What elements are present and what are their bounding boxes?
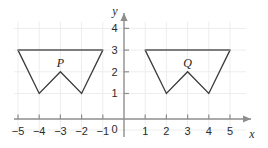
y-tick-label: 2: [111, 66, 117, 78]
y-axis-ticks: [124, 28, 129, 93]
y-tick-label: 1: [111, 87, 117, 99]
shape-q-label: Q: [183, 56, 192, 70]
coordinate-plot-svg: −5 −4 −3 −2 −1 1 2 3 4 5 4 3 2 1 0 x y P: [0, 0, 268, 148]
x-axis-arrow: [243, 115, 251, 122]
y-axis-arrow: [120, 13, 127, 21]
x-tick-label: 2: [163, 125, 169, 137]
x-tick-label: 1: [142, 125, 148, 137]
coordinate-plane-figure: −5 −4 −3 −2 −1 1 2 3 4 5 4 3 2 1 0 x y P: [0, 0, 268, 148]
y-axis-name: y: [111, 4, 118, 18]
x-tick-label: −4: [33, 125, 46, 137]
x-tick-label: 3: [185, 125, 191, 137]
x-tick-label: 5: [227, 125, 233, 137]
x-tick-labels: −5 −4 −3 −2 −1 1 2 3 4 5: [12, 125, 233, 137]
origin-label: 0: [111, 123, 117, 135]
y-tick-label: 4: [111, 22, 117, 34]
x-tick-label: −5: [12, 125, 25, 137]
x-tick-label: −3: [54, 125, 67, 137]
x-axis: [14, 115, 251, 123]
x-tick-label: 4: [206, 125, 212, 137]
x-tick-label: −1: [97, 125, 110, 137]
y-tick-label: 3: [111, 44, 117, 56]
x-tick-label: −2: [75, 125, 88, 137]
grid-horizontal-lines: [14, 28, 246, 130]
shape-p-label: P: [56, 56, 65, 70]
x-axis-name: x: [248, 127, 255, 141]
y-tick-labels: 4 3 2 1: [111, 22, 117, 99]
